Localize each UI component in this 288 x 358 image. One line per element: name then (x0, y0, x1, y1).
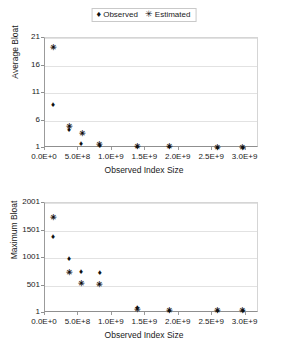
y-tick-mark (41, 120, 44, 121)
x-tick-label: 2.5E+9 (198, 152, 224, 161)
x-tick-label: 2.0E+9 (165, 317, 191, 326)
x-tick-label: 1.0E+9 (98, 317, 124, 326)
y-tick-label: 6 (36, 116, 40, 124)
x-tick-mark (77, 312, 78, 315)
data-point-observed: ♦ (79, 140, 83, 148)
x-tick-mark (111, 312, 112, 315)
x-tick-label: 2.0E+9 (165, 152, 191, 161)
y-tick-label: 11 (32, 88, 40, 96)
gridline-y (45, 203, 257, 204)
y-tick-mark (41, 230, 44, 231)
x-tick-mark (44, 312, 45, 315)
y-tick-mark (41, 92, 44, 93)
x-tick-label: 1.0E+9 (98, 152, 124, 161)
x-tick-label: 3.0E+9 (232, 317, 258, 326)
gridline-y (45, 121, 257, 122)
data-point-estimated: ✳ (66, 269, 73, 277)
data-point-observed: ♦ (98, 269, 102, 277)
x-tick-mark (77, 147, 78, 150)
x-tick-mark (245, 147, 246, 150)
y-tick-mark (41, 285, 44, 286)
x-tick-label: 1.5E+9 (132, 317, 158, 326)
data-point-estimated: ✳ (214, 144, 221, 152)
y-tick-label: 16 (31, 61, 40, 69)
x-tick-label: 0.0E+0 (31, 317, 57, 326)
x-axis-title-observed-index-size-2: Observed Index Size (0, 330, 288, 340)
data-point-estimated: ✳ (78, 280, 85, 288)
y-tick-mark (41, 37, 44, 38)
x-tick-label: 2.5E+9 (198, 317, 224, 326)
x-tick-mark (178, 312, 179, 315)
plot-area-average-bloat: ♦♦♦♦♦♦♦♦✳✳✳✳✳✳✳✳ (44, 37, 258, 147)
gridline-y (45, 258, 257, 259)
x-tick-mark (245, 312, 246, 315)
x-tick-label: 3.0E+9 (232, 152, 258, 161)
plot-area-maximum-bloat: ♦♦♦♦♦♦♦♦✳✳✳✳✳✳✳✳ (44, 202, 258, 312)
x-tick-label: 1.5E+9 (132, 152, 158, 161)
y-tick-label: 1 (36, 143, 40, 151)
data-point-estimated: ✳ (79, 130, 86, 138)
y-tick-mark (41, 202, 44, 203)
data-point-estimated: ✳ (66, 123, 73, 131)
x-tick-mark (144, 147, 145, 150)
y-tick-label: 21 (31, 33, 40, 41)
data-point-observed: ♦ (79, 268, 83, 276)
data-point-estimated: ✳ (50, 214, 57, 222)
x-tick-label: 0.0E+0 (31, 152, 57, 161)
y-tick-label: 1 (36, 308, 40, 316)
plot-frame-average-bloat: ♦♦♦♦♦♦♦♦✳✳✳✳✳✳✳✳ 161116210.0E+05.0E+81.0… (0, 0, 288, 180)
data-point-estimated: ✳ (166, 143, 173, 151)
x-tick-mark (111, 147, 112, 150)
x-tick-mark (211, 147, 212, 150)
x-tick-label: 5.0E+8 (65, 317, 91, 326)
data-point-estimated: ✳ (96, 281, 103, 289)
x-tick-mark (144, 312, 145, 315)
x-tick-mark (211, 312, 212, 315)
x-tick-mark (44, 147, 45, 150)
data-point-estimated: ✳ (214, 307, 221, 315)
data-point-estimated: ✳ (134, 306, 141, 314)
gridline-y (45, 66, 257, 67)
y-tick-mark (41, 257, 44, 258)
maximum-bloat-chart: Maximum Bloat ♦♦♦♦♦♦♦♦✳✳✳✳✳✳✳✳ 150110011… (0, 180, 288, 358)
gridline-y (45, 231, 257, 232)
y-tick-mark (41, 65, 44, 66)
data-point-estimated: ✳ (134, 143, 141, 151)
gridline-y (45, 38, 257, 39)
x-tick-mark (178, 147, 179, 150)
data-point-observed: ♦ (67, 255, 71, 263)
gridline-y (45, 93, 257, 94)
data-point-estimated: ✳ (96, 141, 103, 149)
y-tick-label: 1001 (22, 253, 40, 261)
y-tick-label: 501 (27, 281, 40, 289)
data-point-observed: ♦ (51, 101, 55, 109)
data-point-estimated: ✳ (50, 44, 57, 52)
average-bloat-chart: ♦ Observed ✳ Estimated Average Bloat ♦♦♦… (0, 0, 288, 180)
y-tick-label: 2001 (22, 198, 40, 206)
data-point-observed: ♦ (51, 233, 55, 241)
x-tick-label: 5.0E+8 (65, 152, 91, 161)
x-axis-title-observed-index-size: Observed Index Size (0, 165, 288, 175)
data-point-estimated: ✳ (166, 307, 173, 315)
y-tick-label: 1501 (22, 226, 40, 234)
